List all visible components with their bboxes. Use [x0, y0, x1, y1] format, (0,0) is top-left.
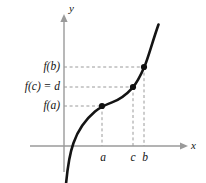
y-axis-arrowhead — [60, 14, 67, 22]
label-a: a — [97, 152, 109, 164]
point-f-of-b — [141, 64, 147, 70]
label-f-of-b: f(b) — [43, 61, 60, 73]
y-axis-label: y — [69, 3, 74, 14]
point-f-of-a — [99, 103, 105, 109]
x-axis-arrowhead — [180, 142, 188, 149]
point-f-of-c — [130, 84, 136, 90]
label-f-of-c-equals-d: f(c) = d — [25, 81, 60, 93]
x-axis-label: x — [191, 140, 196, 151]
label-f-of-a: f(a) — [43, 100, 60, 112]
label-b: b — [139, 152, 151, 164]
label-c: c — [127, 152, 139, 164]
intermediate-value-theorem-figure: f(b) f(c) = d f(a) a c b x y — [0, 0, 206, 183]
